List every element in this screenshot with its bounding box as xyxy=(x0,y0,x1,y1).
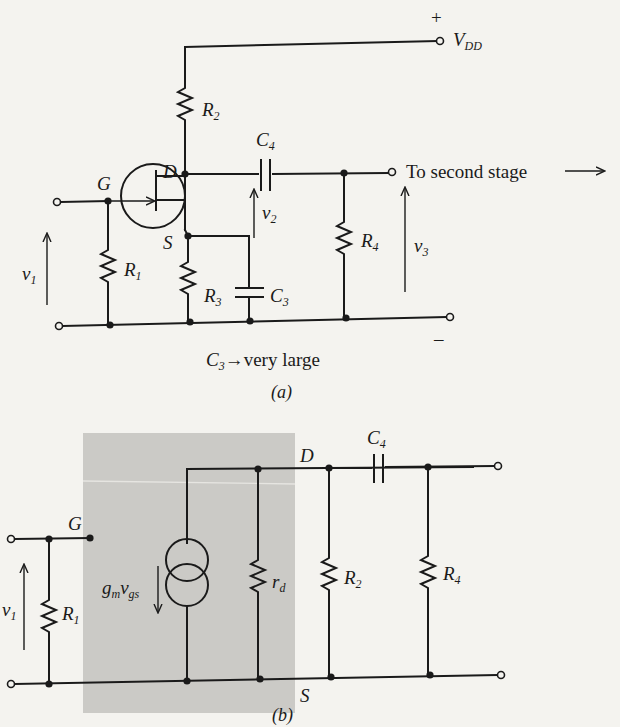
ground-node-r3 xyxy=(186,318,193,325)
b-output-ground-terminal[interactable] xyxy=(498,672,505,679)
b-ground-node-r2 xyxy=(327,673,334,680)
v2-label: v2 xyxy=(262,202,276,226)
b-r1-label: R1 xyxy=(61,603,80,627)
r1-resistor xyxy=(101,201,115,325)
ground-rail-wire xyxy=(63,317,446,326)
c3-top-wire xyxy=(188,236,249,287)
b-v1-label: v1 xyxy=(2,599,16,623)
b-r4-resistor xyxy=(421,467,435,675)
vdd-terminal[interactable] xyxy=(437,38,444,45)
output-label: To second stage xyxy=(406,161,527,182)
figure-b-small-signal-model: G R1 v1 gmvgs rd D R2 C4 R4 xyxy=(2,427,505,726)
r4-label: R4 xyxy=(360,230,379,254)
r3-resistor xyxy=(181,236,195,322)
b-ground-node-r1 xyxy=(45,680,52,687)
b-r4-label: R4 xyxy=(442,563,461,587)
caption-b: (b) xyxy=(272,705,293,726)
caption-a: (a) xyxy=(271,382,292,403)
c3-label: C3 xyxy=(270,285,289,309)
b-gate-terminal-dot xyxy=(86,534,93,541)
r3-label: R3 xyxy=(203,285,222,309)
ground-node-r4 xyxy=(342,314,349,321)
b-input-terminal[interactable] xyxy=(8,536,15,543)
c4-right-wire xyxy=(273,173,388,174)
b-gate-label: G xyxy=(68,513,82,534)
b-ground-node-rd xyxy=(256,675,263,682)
b-r1-resistor xyxy=(42,539,56,684)
v3-label: v3 xyxy=(414,235,428,259)
output-terminal[interactable] xyxy=(389,169,396,176)
vdd-label: VDD xyxy=(453,29,482,53)
vdd-rail-wire xyxy=(185,41,437,47)
c4-label: C4 xyxy=(256,129,275,153)
source-label: S xyxy=(163,232,173,253)
gate-wire xyxy=(61,201,108,202)
gate-input-terminal[interactable] xyxy=(54,199,61,206)
b-output-terminal[interactable] xyxy=(495,463,502,470)
input-ground-terminal[interactable] xyxy=(56,323,63,330)
v1-label: v1 xyxy=(22,263,36,287)
r2-label: R2 xyxy=(201,99,220,123)
b-ground-node-source xyxy=(183,677,190,684)
r2-resistor xyxy=(178,47,192,172)
c3-note: C3→very large xyxy=(206,349,320,373)
jfet-model-shaded-region xyxy=(83,433,295,713)
ground-node-c3 xyxy=(246,317,253,324)
vdd-plus-sign: + xyxy=(431,7,442,28)
gate-label: G xyxy=(97,173,111,194)
ground-node-r1 xyxy=(106,321,113,328)
b-c4-right-wire xyxy=(386,466,494,467)
b-ground-node-r4 xyxy=(426,671,433,678)
b-r2-label: R2 xyxy=(343,567,362,591)
figure-a-schematic: + VDD R2 D C4 To second stage G xyxy=(22,7,604,403)
output-minus-sign: – xyxy=(433,328,444,349)
r4-resistor xyxy=(337,173,351,319)
r1-label: R1 xyxy=(123,259,142,283)
b-source-label: S xyxy=(300,685,310,706)
b-drain-label: D xyxy=(299,445,314,466)
circuit-figure: + VDD R2 D C4 To second stage G xyxy=(0,0,620,727)
output-ground-terminal[interactable] xyxy=(447,314,454,321)
b-c4-label: C4 xyxy=(367,427,386,451)
b-input-ground-terminal[interactable] xyxy=(8,681,15,688)
b-r2-resistor xyxy=(322,468,336,676)
